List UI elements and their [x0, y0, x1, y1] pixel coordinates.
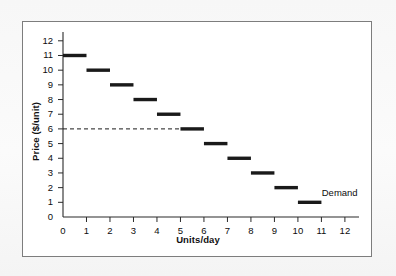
y-tick-label-11: 11 — [37, 49, 53, 60]
x-axis-ticks — [86, 217, 344, 222]
x-tick-label-12: 12 — [337, 225, 353, 236]
figure-root: 0123456789101112 0123456789101112 Price … — [0, 0, 396, 276]
demand-curve-label: Demand — [322, 187, 358, 198]
y-tick-label-2: 2 — [37, 182, 53, 193]
axes — [63, 32, 359, 217]
chart-frame: 0123456789101112 0123456789101112 Price … — [22, 21, 372, 257]
x-axis-title: Units/day — [83, 234, 313, 245]
demand-curve-plot — [23, 22, 371, 256]
y-tick-label-12: 12 — [37, 35, 53, 46]
y-tick-label-10: 10 — [37, 64, 53, 75]
y-axis-ticks — [58, 41, 63, 203]
y-axis-title: Price ($/unit) — [30, 87, 41, 177]
y-tick-label-1: 1 — [37, 196, 53, 207]
y-tick-label-0: 0 — [37, 211, 53, 222]
x-tick-label-11: 11 — [313, 225, 329, 236]
x-tick-label-0: 0 — [55, 225, 71, 236]
